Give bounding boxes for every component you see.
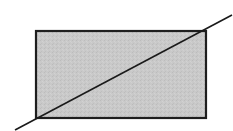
- diagram-canvas: [0, 0, 233, 131]
